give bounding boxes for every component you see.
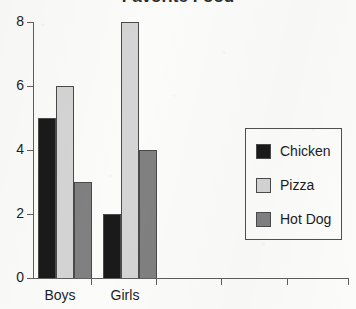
y-tick-0 xyxy=(27,278,33,279)
bar-boys-chicken xyxy=(38,118,56,279)
y-tick-label-2: 2 xyxy=(4,205,24,221)
y-axis-line xyxy=(33,22,34,279)
y-tick-2 xyxy=(27,214,33,215)
x-axis-line xyxy=(33,278,349,279)
bar-chart-figure: Favorite Food 8 6 4 2 0 Boys Girls Chick… xyxy=(0,0,356,309)
chart-title: Favorite Food xyxy=(0,0,356,7)
legend-swatch-hotdog-icon xyxy=(256,212,271,227)
x-tick-1 xyxy=(91,279,92,285)
x-tick-3 xyxy=(221,279,222,285)
legend-swatch-chicken-icon xyxy=(256,144,271,159)
y-tick-label-0: 0 xyxy=(4,269,24,285)
y-tick-6 xyxy=(27,86,33,87)
bar-girls-hotdog xyxy=(139,150,157,279)
y-tick-label-4: 4 xyxy=(4,141,24,157)
legend-item-hotdog: Hot Dog xyxy=(256,211,331,227)
legend-label-pizza: Pizza xyxy=(280,177,314,193)
bar-boys-hotdog xyxy=(74,182,92,279)
legend-label-chicken: Chicken xyxy=(280,143,331,159)
legend-swatch-pizza-icon xyxy=(256,178,271,193)
x-tick-2 xyxy=(156,279,157,285)
y-tick-label-8: 8 xyxy=(4,13,24,29)
legend-item-pizza: Pizza xyxy=(256,177,314,193)
x-tick-4 xyxy=(287,279,288,285)
legend-item-chicken: Chicken xyxy=(256,143,331,159)
bar-girls-chicken xyxy=(103,214,121,279)
x-tick-5 xyxy=(348,279,349,285)
x-tick-label-girls: Girls xyxy=(90,287,160,303)
legend: Chicken Pizza Hot Dog xyxy=(245,128,342,240)
y-tick-label-6: 6 xyxy=(4,77,24,93)
y-tick-4 xyxy=(27,150,33,151)
chart-title-cropped: Favorite Food xyxy=(0,0,356,9)
y-tick-8 xyxy=(27,22,33,23)
legend-label-hotdog: Hot Dog xyxy=(280,211,331,227)
bar-boys-pizza xyxy=(56,86,74,279)
bar-girls-pizza xyxy=(121,22,139,279)
x-tick-label-boys: Boys xyxy=(25,287,95,303)
